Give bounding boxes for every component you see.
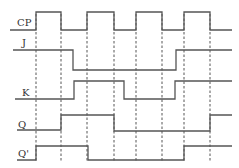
signal-labels: CPJKQQ': [17, 17, 32, 159]
signal-label-q: Q: [18, 119, 26, 130]
signal-label-cp: CP: [17, 17, 32, 28]
signal-label-j: J: [21, 37, 26, 48]
waveform-j: [13, 50, 232, 70]
waveform-cp: [10, 12, 232, 30]
waveform-qbar: [17, 146, 232, 160]
waveform-k: [15, 81, 232, 99]
clock-edge-guides: [36, 14, 210, 162]
waveform-q: [17, 115, 232, 131]
signal-label-qbar: Q': [18, 148, 29, 159]
timing-diagram: CPJKQQ': [0, 0, 239, 168]
signal-waveforms: [10, 12, 232, 160]
signal-label-k: K: [22, 87, 30, 98]
